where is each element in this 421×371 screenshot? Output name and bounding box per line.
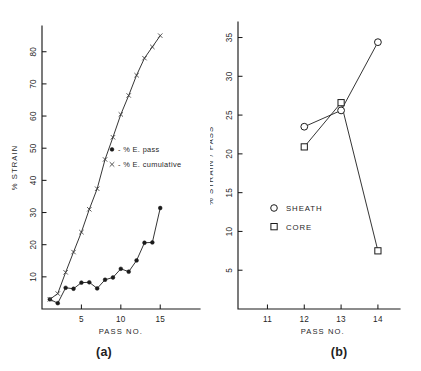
data-point bbox=[135, 259, 139, 263]
y-tick-label: 20 bbox=[29, 240, 38, 250]
x-tick-label: 14 bbox=[373, 315, 383, 324]
panel-b-ylabel: % STRAIN / PASS bbox=[210, 126, 215, 205]
data-point bbox=[79, 230, 83, 234]
legend-label-sheath: SHEATH bbox=[286, 204, 322, 213]
panel-a: 102030405060708051015% STRAINPASS NO.- %… bbox=[0, 0, 210, 371]
data-point bbox=[127, 93, 131, 97]
legend-label-core: CORE bbox=[286, 223, 312, 232]
data-point bbox=[143, 241, 147, 245]
y-tick-label: 30 bbox=[225, 71, 234, 81]
data-point bbox=[95, 287, 99, 291]
x-tick-label: 10 bbox=[116, 315, 126, 324]
data-point bbox=[375, 248, 381, 254]
data-point bbox=[71, 250, 75, 254]
y-tick-label: 10 bbox=[29, 272, 38, 282]
x-tick-label: 13 bbox=[336, 315, 346, 324]
data-point bbox=[63, 270, 67, 274]
legend-label-cumulative: - % E. cumulative bbox=[118, 160, 181, 169]
figure-container: 102030405060708051015% STRAINPASS NO.- %… bbox=[0, 0, 421, 371]
data-point bbox=[111, 135, 115, 139]
y-tick-label: 60 bbox=[29, 111, 38, 121]
data-point bbox=[158, 33, 162, 37]
panel-a-ylabel: % STRAIN bbox=[10, 145, 19, 191]
panel-b-axes bbox=[238, 22, 400, 309]
data-point bbox=[103, 278, 107, 282]
series-line-core bbox=[304, 103, 378, 251]
data-point bbox=[56, 291, 60, 295]
y-tick-label: 35 bbox=[225, 33, 234, 43]
y-tick-label: 80 bbox=[29, 47, 38, 57]
legend-marker-filled-circle bbox=[110, 148, 114, 152]
data-point bbox=[56, 301, 60, 305]
x-tick-label: 12 bbox=[299, 315, 309, 324]
panel-b-xlabel: PASS NO. bbox=[301, 327, 345, 336]
legend-marker-cross bbox=[110, 162, 115, 167]
data-point bbox=[119, 267, 123, 271]
data-point bbox=[119, 112, 123, 116]
y-tick-label: 15 bbox=[225, 188, 234, 198]
y-tick-label: 40 bbox=[29, 175, 38, 185]
legend-marker-open-circle bbox=[271, 205, 278, 212]
y-tick-label: 25 bbox=[225, 110, 234, 120]
data-point bbox=[150, 45, 154, 49]
data-point bbox=[338, 100, 344, 106]
y-tick-label: 10 bbox=[225, 226, 234, 236]
data-point bbox=[301, 123, 308, 130]
data-point bbox=[64, 286, 68, 290]
panel-b-label: (b) bbox=[331, 345, 348, 359]
y-tick-label: 5 bbox=[225, 268, 234, 273]
data-point bbox=[158, 206, 162, 210]
panel-b: 510152025303511121314% STRAIN / PASSPASS… bbox=[210, 0, 421, 371]
data-point bbox=[375, 39, 382, 46]
panel-a-label: (a) bbox=[96, 345, 112, 359]
data-point bbox=[87, 280, 91, 284]
panel-a-xlabel: PASS NO. bbox=[99, 327, 143, 336]
x-tick-label: 11 bbox=[263, 315, 272, 324]
data-point bbox=[150, 241, 154, 245]
legend-marker-open-square bbox=[271, 224, 277, 230]
y-tick-label: 70 bbox=[29, 79, 38, 89]
data-point bbox=[111, 276, 115, 280]
panel-a-plot: 102030405060708051015% STRAINPASS NO.- %… bbox=[0, 0, 210, 371]
data-point bbox=[80, 281, 84, 285]
data-point bbox=[87, 207, 91, 211]
panel-b-plot: 510152025303511121314% STRAIN / PASSPASS… bbox=[210, 0, 421, 371]
data-point bbox=[301, 144, 307, 150]
y-tick-label: 30 bbox=[29, 208, 38, 218]
y-tick-label: 50 bbox=[29, 143, 38, 153]
data-point bbox=[142, 56, 146, 60]
data-point bbox=[338, 107, 345, 114]
data-point bbox=[134, 73, 138, 77]
x-tick-label: 15 bbox=[155, 315, 165, 324]
data-point bbox=[72, 287, 76, 291]
data-point bbox=[127, 270, 131, 274]
x-tick-label: 5 bbox=[79, 315, 84, 324]
y-tick-label: 20 bbox=[225, 149, 234, 159]
legend-label-pass: - % E. pass bbox=[118, 145, 160, 154]
